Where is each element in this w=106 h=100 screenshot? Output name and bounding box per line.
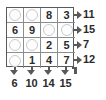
empty-circle-icon: [26, 9, 38, 21]
col-sum-3: 14: [40, 67, 57, 89]
row-sum-1: 11: [74, 7, 95, 22]
empty-circle-icon: [9, 39, 21, 51]
col-sum-2-value: 10: [25, 78, 37, 89]
empty-circle-icon: [43, 24, 55, 36]
puzzle-grid: 8 3 6 9 2 5 1 4 7: [6, 7, 74, 67]
col-sum-1-value: 6: [11, 78, 17, 89]
grid-cell-r4c4[interactable]: 7: [58, 53, 75, 68]
col-sum-3-value: 14: [42, 78, 54, 89]
row-sums: 11 15 7 12: [74, 7, 106, 67]
grid-cell-r3c4[interactable]: 5: [58, 38, 75, 53]
addition-grid-puzzle: 8 3 6 9 2 5 1 4 7 11 15 7 12: [0, 0, 106, 100]
row-sum-1-value: 11: [83, 9, 95, 20]
grid-cell-r3c2[interactable]: [24, 38, 41, 53]
arrow-right-icon: [74, 22, 81, 37]
row-sum-4: 12: [74, 52, 95, 67]
grid-cell-r1c3[interactable]: 8: [41, 8, 58, 23]
grid-cell-r1c2[interactable]: [24, 8, 41, 23]
row-sum-4-value: 12: [83, 54, 95, 65]
grid-cell-r3c3[interactable]: 2: [41, 38, 58, 53]
grid-cell-r3c1[interactable]: [7, 38, 24, 53]
grid-cell-r1c1[interactable]: [7, 8, 24, 23]
empty-circle-icon: [9, 55, 21, 67]
grid-cell-r2c4[interactable]: [58, 23, 75, 38]
row-sum-3-value: 7: [83, 39, 89, 50]
empty-circle-icon: [26, 39, 38, 51]
row-sum-2: 15: [74, 22, 95, 37]
arrow-right-icon: [74, 7, 81, 22]
col-sum-4: 15: [57, 67, 74, 89]
grid-cell-r4c2[interactable]: 1: [24, 53, 41, 68]
arrow-down-icon: [41, 67, 56, 75]
empty-circle-icon: [9, 9, 21, 21]
row-sum-2-value: 15: [83, 24, 95, 35]
arrow-right-icon: [74, 52, 81, 67]
col-sum-1: 6: [6, 67, 23, 89]
grid-cell-r2c3[interactable]: [41, 23, 58, 38]
arrow-down-icon: [7, 67, 22, 75]
arrow-down-icon: [24, 67, 39, 75]
row-sum-3: 7: [74, 37, 89, 52]
col-sum-4-value: 15: [59, 78, 71, 89]
arrow-down-icon: [58, 67, 73, 75]
arrow-right-icon: [74, 37, 81, 52]
grid-cell-r4c1[interactable]: [7, 53, 24, 68]
grid-cell-r4c3[interactable]: 4: [41, 53, 58, 68]
col-sum-2: 10: [23, 67, 40, 89]
column-sums: 6 10 14 15: [6, 67, 74, 97]
grid-cell-r2c2[interactable]: 9: [24, 23, 41, 38]
grid-cell-r1c4[interactable]: 3: [58, 8, 75, 23]
grid-cell-r2c1[interactable]: 6: [7, 23, 24, 38]
empty-circle-icon: [61, 24, 73, 36]
